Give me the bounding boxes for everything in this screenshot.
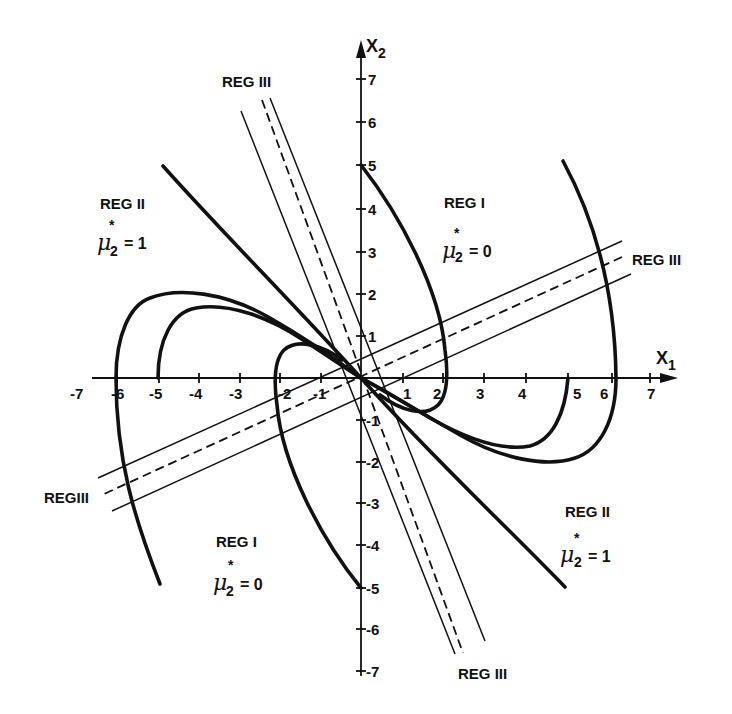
switching-line [270,98,485,641]
svg-text:2: 2 [574,554,582,570]
svg-text:3: 3 [476,385,484,402]
svg-text:2: 2 [226,583,234,599]
svg-text:-5: -5 [366,580,379,597]
svg-text:-1: -1 [366,412,379,429]
svg-text:REG III: REG III [222,73,271,90]
region-label-reg1-lower: REG I μ * 2 = 0 [213,533,263,599]
y-axis-arrow-icon [356,40,366,58]
svg-text:4: 4 [518,385,527,402]
svg-text:2: 2 [455,249,463,265]
svg-text:-4: -4 [189,385,203,402]
svg-text:5: 5 [368,157,376,174]
y-axis-title: X 2 [366,36,386,61]
svg-text:= 0: = 0 [469,243,492,260]
region-label-reg3-left: REGIII [44,489,89,506]
svg-text:X: X [366,36,378,56]
svg-text:2: 2 [378,45,386,61]
svg-text:-3: -3 [229,385,242,402]
svg-text:4: 4 [368,201,377,218]
svg-text:REG II: REG II [100,195,145,212]
svg-text:-7: -7 [366,663,379,680]
region-label-reg3-right: REG III [632,251,681,268]
y-tick-labels: 1 2 3 4 5 6 7 -1 -2 -3 -4 -5 -6 -7 [366,71,380,680]
svg-text:REG III: REG III [632,251,681,268]
switching-lines-shallow [98,241,631,511]
region-label-reg2-lower: REG II μ * 2 = 1 [560,503,611,570]
phase-portrait-diagram: -7 -6 -5 -4 -3 -2 -1 1 2 3 4 5 6 7 1 2 3… [0,0,732,714]
svg-text:REG I: REG I [444,194,485,211]
region-label-reg1-upper: REG I μ * 2 = 0 [442,194,492,265]
switching-line [98,241,622,478]
trajectory-reg1-lower [275,344,361,588]
svg-text:REGIII: REGIII [44,489,89,506]
svg-text:6: 6 [368,114,376,131]
svg-text:-4: -4 [366,537,380,554]
svg-text:7: 7 [647,385,655,402]
svg-text:3: 3 [368,244,376,261]
svg-text:-6: -6 [366,621,379,638]
svg-text:1: 1 [668,357,676,373]
svg-text:*: * [109,217,115,233]
svg-text:REG II: REG II [565,503,610,520]
svg-text:6: 6 [600,385,608,402]
svg-text:REG I: REG I [216,533,257,550]
svg-text:REG III: REG III [458,665,507,682]
svg-text:*: * [454,225,460,241]
trajectory-reg2-lower-line [361,378,565,587]
svg-text:= 1: = 1 [124,235,147,252]
svg-text:-5: -5 [149,385,162,402]
svg-text:1: 1 [403,385,411,402]
region-label-reg3-bottom: REG III [458,665,507,682]
svg-text:-3: -3 [366,495,379,512]
svg-text:*: * [574,530,580,546]
svg-text:2: 2 [110,243,118,259]
svg-text:*: * [228,557,234,573]
svg-text:1: 1 [368,328,376,345]
svg-text:5: 5 [573,385,581,402]
svg-text:X: X [656,348,668,368]
x-axis-title: X 1 [656,348,676,373]
x-axis-arrow-icon [660,373,678,383]
switching-line-dashed [262,100,463,653]
svg-text:μ: μ [560,542,574,567]
svg-text:-7: -7 [70,385,83,402]
region-label-reg2-upper: REG II μ * 2 = 1 [97,195,147,259]
region-label-reg3-top: REG III [222,73,271,90]
svg-text:= 0: = 0 [240,576,263,593]
svg-text:2: 2 [368,286,376,303]
trajectory-reg2-upper-line [163,166,361,378]
svg-text:= 1: = 1 [588,548,611,565]
svg-text:7: 7 [368,71,376,88]
